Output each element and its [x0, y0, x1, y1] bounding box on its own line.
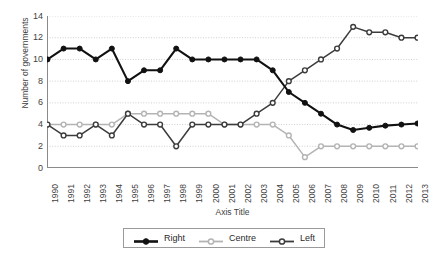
data-point [415, 144, 418, 149]
x-tick-label: 2011 [389, 185, 398, 203]
data-point [158, 122, 163, 127]
data-point [270, 68, 275, 73]
data-point [270, 100, 275, 105]
legend-item-centre[interactable]: Centre [198, 233, 256, 244]
data-point [77, 122, 82, 127]
data-point [61, 133, 66, 138]
plot-svg [47, 16, 418, 168]
x-tick-label: 1998 [179, 184, 188, 203]
x-tick-label: 2012 [405, 184, 414, 203]
legend-label: Centre [229, 233, 256, 243]
data-point [61, 46, 66, 51]
data-point [286, 79, 291, 84]
line-chart: Number of governments 02468101214 199019… [0, 0, 437, 259]
data-point [351, 24, 356, 29]
legend-item-right[interactable]: Right [133, 233, 185, 244]
data-point [61, 122, 66, 127]
x-tick-label: 1990 [51, 184, 60, 203]
x-tick-label: 1993 [99, 184, 108, 203]
legend-marker-icon [198, 233, 224, 244]
data-point [383, 30, 388, 35]
data-point [142, 111, 147, 116]
data-point [125, 79, 130, 84]
data-point [335, 144, 340, 149]
y-tick-label: 4 [5, 120, 43, 129]
data-point [126, 111, 131, 116]
legend-marker-icon [269, 233, 295, 244]
x-tick-label: 2003 [260, 184, 269, 203]
data-point [319, 57, 324, 62]
x-tick-label: 2000 [212, 184, 221, 203]
data-point [367, 144, 372, 149]
data-point [335, 46, 340, 51]
data-point [415, 35, 418, 40]
y-tick-label: 8 [5, 77, 43, 86]
data-point [222, 57, 227, 62]
data-point [238, 57, 243, 62]
x-tick-label: 2004 [276, 184, 285, 203]
data-point [286, 133, 291, 138]
legend-label: Left [300, 233, 315, 243]
x-tick-label: 1997 [163, 184, 172, 203]
data-point [190, 122, 195, 127]
data-point [367, 125, 372, 130]
x-tick-label: 2005 [292, 184, 301, 203]
data-point [174, 144, 179, 149]
data-point [319, 144, 324, 149]
x-tick-label: 2009 [356, 184, 365, 203]
data-point [174, 46, 179, 51]
data-point [286, 90, 291, 95]
data-point [318, 111, 323, 116]
plot-area [47, 16, 418, 168]
y-tick-label: 10 [5, 55, 43, 64]
x-axis-tick-labels: 1990199119921993199419951996199719981999… [47, 170, 418, 210]
x-tick-label: 1994 [115, 184, 124, 203]
data-point [77, 46, 82, 51]
data-point [142, 122, 147, 127]
data-point [77, 133, 82, 138]
x-tick-label: 2006 [308, 184, 317, 203]
x-tick-label: 2008 [340, 184, 349, 203]
chart-legend: RightCentreLeft [123, 228, 325, 248]
data-point [206, 122, 211, 127]
data-point [383, 144, 388, 149]
data-point [302, 155, 307, 160]
data-point [399, 144, 404, 149]
y-tick-label: 6 [5, 98, 43, 107]
data-point [190, 57, 195, 62]
legend-label: Right [164, 233, 185, 243]
series-left [47, 24, 418, 148]
y-axis-tick-labels: 02468101214 [0, 16, 43, 168]
data-point [335, 122, 340, 127]
x-tick-label: 1996 [147, 184, 156, 203]
y-tick-label: 12 [5, 33, 43, 42]
data-point [190, 111, 195, 116]
data-point [206, 57, 211, 62]
data-point [158, 111, 163, 116]
series-line [48, 114, 418, 157]
x-tick-label: 2010 [372, 184, 381, 203]
data-point [254, 57, 259, 62]
data-point [399, 122, 404, 127]
x-tick-label: 1995 [131, 184, 140, 203]
legend-item-left[interactable]: Left [269, 233, 315, 244]
y-tick-label: 2 [5, 142, 43, 151]
data-point [93, 57, 98, 62]
data-point [142, 68, 147, 73]
data-point [351, 128, 356, 133]
data-point [270, 122, 275, 127]
data-point [109, 133, 114, 138]
data-point [302, 100, 307, 105]
data-point [302, 68, 307, 73]
data-point [206, 111, 211, 116]
x-tick-label: 2001 [228, 184, 237, 203]
x-tick-label: 2007 [324, 184, 333, 203]
data-point [367, 30, 372, 35]
data-point [254, 111, 259, 116]
data-point [238, 122, 243, 127]
x-tick-label: 2002 [244, 184, 253, 203]
y-tick-label: 0 [5, 164, 43, 173]
data-point [415, 121, 418, 126]
series-centre [47, 111, 418, 159]
data-point [399, 35, 404, 40]
